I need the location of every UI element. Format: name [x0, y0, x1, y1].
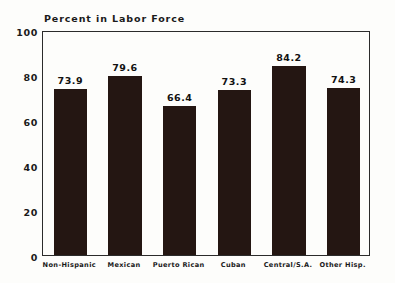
bar-value-label: 79.6 — [112, 62, 137, 73]
bar-group[interactable]: 84.2 — [272, 32, 306, 255]
bar-group[interactable]: 73.9 — [54, 32, 88, 255]
bar-rect[interactable] — [272, 66, 306, 255]
y-axis-tick-label: 20 — [24, 207, 38, 218]
bar-group[interactable]: 66.4 — [163, 32, 197, 255]
x-axis-tick-label: Non-Hispanic — [43, 261, 96, 269]
plot-area: 020406080100 73.979.666.473.384.274.3 — [42, 31, 370, 256]
y-axis-tick-label: 40 — [24, 162, 38, 173]
bar-rect[interactable] — [54, 89, 88, 255]
bar-rect[interactable] — [163, 106, 197, 255]
y-axis-tick-label: 0 — [31, 252, 38, 263]
bar-rect[interactable] — [218, 90, 252, 255]
bar-rect[interactable] — [327, 88, 361, 255]
x-axis-tick-label: Cuban — [221, 261, 246, 269]
chart-page: Percent in Labor Force 020406080100 73.9… — [0, 0, 395, 283]
bar-value-label: 74.3 — [331, 74, 356, 85]
bars-layer: 73.979.666.473.384.274.3 — [43, 32, 369, 255]
bar-value-label: 84.2 — [276, 52, 301, 63]
y-axis-tick-label: 100 — [16, 27, 38, 38]
chart-title: Percent in Labor Force — [44, 13, 185, 24]
bar-group[interactable]: 73.3 — [218, 32, 252, 255]
bar-group[interactable]: 74.3 — [327, 32, 361, 255]
x-axis-tick-label: Puerto Rican — [153, 261, 205, 269]
y-axis-tick-label: 60 — [24, 117, 38, 128]
x-axis-tick-label: Other Hisp. — [320, 261, 366, 269]
bar-group[interactable]: 79.6 — [108, 32, 142, 255]
bar-value-label: 73.9 — [58, 75, 83, 86]
bar-value-label: 66.4 — [167, 92, 192, 103]
y-axis-tick-label: 80 — [24, 72, 38, 83]
x-axis-tick-label: Mexican — [107, 261, 140, 269]
bar-value-label: 73.3 — [222, 76, 247, 87]
bar-rect[interactable] — [108, 76, 142, 255]
x-axis-tick-label: Central/S.A. — [264, 261, 313, 269]
